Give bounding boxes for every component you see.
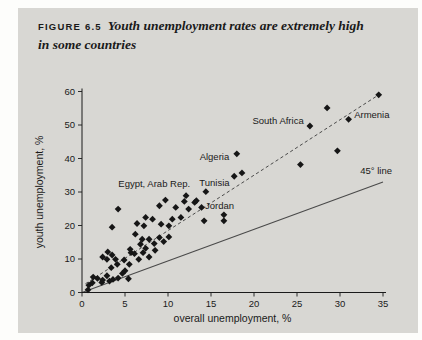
45-degree-line — [82, 182, 383, 293]
data-point — [172, 204, 179, 211]
data-point — [156, 234, 163, 241]
x-tick-label: 20 — [249, 298, 260, 309]
country-label: Algeria — [200, 151, 230, 162]
data-point — [158, 221, 165, 228]
data-point — [169, 216, 176, 223]
x-tick-label: 10 — [163, 298, 174, 309]
country-label: Armenia — [354, 109, 390, 120]
data-point-tunisia — [202, 188, 209, 195]
country-label: South Africa — [252, 115, 304, 126]
country-label: Jordan — [205, 200, 234, 211]
figure-title-line1: Youth unemployment rates are extremely h… — [108, 18, 364, 33]
45-degree-line-label: 45° line — [360, 165, 392, 176]
figure-title-line2: in some countries — [38, 37, 136, 52]
data-point — [221, 217, 228, 224]
data-point — [152, 247, 159, 254]
x-tick-label: 25 — [292, 298, 303, 309]
data-point — [198, 204, 205, 211]
y-tick-label: 20 — [64, 220, 75, 231]
country-label: Egypt, Arab Rep. — [118, 178, 190, 189]
data-point — [165, 233, 172, 240]
y-tick-label: 40 — [64, 153, 75, 164]
data-point — [126, 261, 133, 268]
data-point — [156, 202, 163, 209]
x-tick-label: 15 — [206, 298, 217, 309]
data-point — [181, 198, 188, 205]
data-point-egypt-arab-rep- — [162, 197, 169, 204]
data-point — [231, 173, 238, 180]
data-point — [146, 254, 153, 261]
data-point-algeria — [233, 150, 240, 157]
y-tick-label: 0 — [70, 287, 75, 298]
data-point — [132, 231, 139, 238]
scatter-chart: 45° line051015202530350102030405060overa… — [0, 55, 422, 340]
data-point — [165, 222, 172, 229]
data-point — [115, 206, 122, 213]
y-tick-label: 10 — [64, 253, 75, 264]
x-tick-label: 35 — [378, 298, 389, 309]
x-axis-title: overall unemployment, % — [174, 312, 292, 324]
data-point — [185, 206, 192, 213]
data-point — [334, 147, 341, 154]
figure-title: FIGURE 6.5Youth unemployment rates are e… — [38, 16, 398, 53]
figure-panel: FIGURE 6.5Youth unemployment rates are e… — [18, 8, 418, 333]
data-point — [141, 222, 148, 229]
data-point — [151, 240, 158, 247]
data-point-jordan — [221, 211, 228, 218]
y-axis-title: youth unemployment, % — [33, 136, 45, 249]
figure-number-label: FIGURE 6.5 — [38, 21, 102, 32]
data-point — [142, 214, 149, 221]
trend-line — [85, 95, 378, 284]
data-point — [375, 91, 382, 98]
y-tick-label: 60 — [64, 86, 75, 97]
x-tick-label: 30 — [335, 298, 346, 309]
data-point — [160, 238, 167, 245]
data-point — [183, 192, 190, 199]
x-tick-label: 5 — [122, 298, 127, 309]
data-point — [239, 170, 246, 177]
data-point — [134, 220, 141, 227]
data-point-south-africa — [307, 123, 314, 130]
x-tick-label: 0 — [79, 298, 84, 309]
data-point — [149, 216, 156, 223]
data-point-armenia — [345, 116, 352, 123]
data-point — [108, 264, 115, 271]
data-point — [178, 214, 185, 221]
y-tick-label: 50 — [64, 119, 75, 130]
data-point — [109, 224, 116, 231]
data-point — [324, 105, 331, 112]
data-point — [135, 256, 142, 263]
y-tick-label: 30 — [64, 186, 75, 197]
data-point — [201, 217, 208, 224]
country-label: Tunisia — [199, 177, 230, 188]
data-point — [297, 161, 304, 168]
